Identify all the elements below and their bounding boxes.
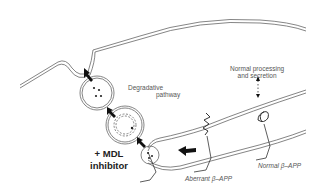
normal-processing-label: Normal processing and secretion xyxy=(230,65,284,79)
normal-processing-line1: Normal processing xyxy=(230,65,284,72)
aberrant-app-protein xyxy=(203,113,210,135)
app-processing-diagram: Degradative pathway Normal processing an… xyxy=(0,0,325,190)
membrane-tube-upper xyxy=(148,90,306,148)
arrow-to-degradative xyxy=(137,137,146,148)
arrow-left xyxy=(178,146,196,156)
transport-arrows xyxy=(84,68,260,156)
degradative-label: Degradative pathway xyxy=(128,84,180,98)
normal-processing-line2: and secretion xyxy=(230,72,284,79)
normal-app-label: Normal β–APP xyxy=(258,162,301,169)
degradative-label-line1: Degradative xyxy=(128,84,180,91)
mdl-inhibitor-label: + MDL inhibitor xyxy=(90,148,128,172)
normal-app-protein xyxy=(258,112,268,122)
aberrant-app-label: Aberrant β–APP xyxy=(185,175,232,182)
vesicle-upper xyxy=(80,76,114,110)
mdl-label-line1: + MDL xyxy=(90,148,128,160)
degradative-label-line2: pathway xyxy=(128,91,180,98)
mdl-label-line2: inhibitor xyxy=(90,160,128,172)
